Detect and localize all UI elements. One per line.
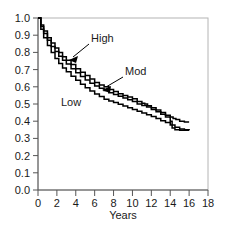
y-tick-label: 0.6 bbox=[15, 81, 30, 93]
series-label-low: Low bbox=[61, 96, 81, 108]
x-axis-title: Years bbox=[109, 209, 137, 221]
chart-canvas: 0.00.10.20.30.40.50.60.70.80.91.0 024681… bbox=[0, 0, 236, 238]
y-tick-label: 0.0 bbox=[15, 184, 30, 196]
x-tick-label: 6 bbox=[92, 197, 98, 209]
y-tick-label: 0.9 bbox=[15, 29, 30, 41]
series-label-high: High bbox=[91, 32, 114, 44]
y-axis-ticks: 0.00.10.20.30.40.50.60.70.80.91.0 bbox=[15, 12, 38, 196]
x-tick-label: 4 bbox=[73, 197, 79, 209]
y-tick-label: 0.3 bbox=[15, 132, 30, 144]
y-tick-label: 1.0 bbox=[15, 12, 30, 24]
x-tick-label: 8 bbox=[110, 197, 116, 209]
x-tick-label: 0 bbox=[35, 197, 41, 209]
survival-curve-chart: 0.00.10.20.30.40.50.60.70.80.91.0 024681… bbox=[0, 0, 236, 238]
x-tick-label: 12 bbox=[145, 197, 157, 209]
high-leader-line bbox=[73, 44, 89, 57]
x-tick-label: 14 bbox=[164, 197, 176, 209]
y-tick-label: 0.7 bbox=[15, 64, 30, 76]
x-axis-ticks: 024681012141618 bbox=[35, 190, 214, 209]
y-tick-label: 0.4 bbox=[15, 115, 30, 127]
series-label-mod: Mod bbox=[125, 65, 146, 77]
y-tick-label: 0.8 bbox=[15, 46, 30, 58]
x-tick-label: 10 bbox=[126, 197, 138, 209]
y-tick-label: 0.1 bbox=[15, 167, 30, 179]
x-tick-label: 18 bbox=[202, 197, 214, 209]
y-tick-label: 0.2 bbox=[15, 150, 30, 162]
x-tick-label: 2 bbox=[54, 197, 60, 209]
x-tick-label: 16 bbox=[183, 197, 195, 209]
mod-leader-line bbox=[106, 77, 123, 87]
y-tick-label: 0.5 bbox=[15, 98, 30, 110]
